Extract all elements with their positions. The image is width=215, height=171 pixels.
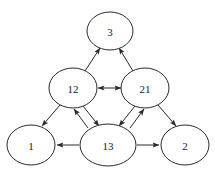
node-label-13: 13 <box>103 140 115 152</box>
edge-21-to-13 <box>119 106 135 126</box>
node-12[interactable]: 12 <box>49 68 97 108</box>
edge-21-to-2 <box>158 105 176 126</box>
node-1[interactable]: 1 <box>7 125 55 165</box>
node-label-3: 3 <box>107 26 113 38</box>
node-label-2: 2 <box>182 140 188 152</box>
node-label-1: 1 <box>28 140 34 152</box>
node-3[interactable]: 3 <box>87 12 133 50</box>
edge-13-to-12 <box>74 109 88 128</box>
graph-canvas: 312211132 <box>0 0 215 171</box>
graph-diagram: 312211132 <box>0 0 215 171</box>
edge-12-to-13 <box>83 106 99 126</box>
node-21[interactable]: 21 <box>121 68 169 108</box>
edge-21-to-3 <box>119 48 133 71</box>
node-label-12: 12 <box>68 83 79 95</box>
node-2[interactable]: 2 <box>161 125 209 165</box>
edge-12-to-1 <box>42 105 60 126</box>
node-label-21: 21 <box>140 83 151 95</box>
edge-13-to-21 <box>130 109 144 128</box>
node-13[interactable]: 13 <box>80 124 136 166</box>
nodes-layer: 312211132 <box>7 12 209 166</box>
edge-12-to-3 <box>85 48 100 71</box>
